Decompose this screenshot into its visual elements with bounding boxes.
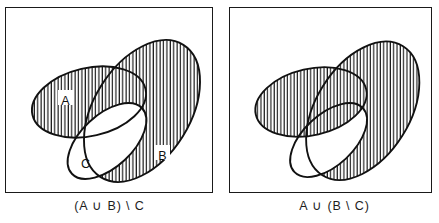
shaded-region-left (6, 8, 214, 194)
set-label-b: B (158, 149, 166, 163)
venn-figure: A B C (A ∪ B) \ C (0, 0, 439, 223)
caption-right: A ∪ (B \ C) (225, 198, 439, 213)
venn-diagram-right (230, 8, 433, 194)
panel-right: A ∪ (B \ C) (219, 0, 438, 223)
shaded-region-right (230, 10, 433, 192)
caption-left: (A ∪ B) \ C (0, 198, 219, 213)
panel-row: A B C (A ∪ B) \ C (0, 0, 439, 223)
venn-diagram-left: A B C (6, 8, 214, 194)
set-label-c: C (81, 157, 90, 171)
panel-right-frame (229, 7, 432, 193)
panel-left: A B C (A ∪ B) \ C (0, 0, 219, 223)
panel-left-frame: A B C (5, 7, 213, 193)
set-label-a: A (61, 94, 70, 108)
